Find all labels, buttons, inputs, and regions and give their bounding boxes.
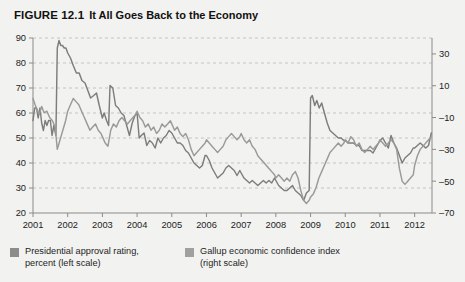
- legend-swatch-approval: [10, 248, 19, 257]
- chart-svg: 2030405060708090 3010–10–30–50–70 200120…: [0, 30, 465, 230]
- page-title: It All Goes Back to the Economy: [89, 9, 258, 21]
- x-tick-label: 2006: [196, 220, 217, 230]
- x-tick-label: 2005: [161, 220, 182, 230]
- x-tick-label: 2011: [370, 220, 390, 230]
- legend-label-confidence: Gallup economic confidence index (right …: [200, 246, 340, 269]
- chart-gridlines: [33, 38, 432, 188]
- left-axis-ticks: 2030405060708090: [16, 33, 33, 218]
- chart-series-group: [33, 41, 431, 204]
- right-tick-label: –30: [439, 145, 455, 155]
- series-line-0: [33, 41, 431, 201]
- right-tick-label: –50: [439, 177, 455, 187]
- left-tick-label: 90: [16, 33, 26, 43]
- right-tick-label: 30: [439, 49, 449, 59]
- left-tick-label: 50: [16, 133, 26, 143]
- x-tick-label: 2009: [300, 220, 321, 230]
- x-tick-label: 2007: [231, 220, 252, 230]
- left-tick-label: 80: [16, 58, 26, 68]
- x-tick-label: 2004: [127, 220, 148, 230]
- x-axis-ticks: 2001200220032004200520062007200820092010…: [23, 213, 425, 230]
- x-tick-label: 2002: [57, 220, 78, 230]
- x-tick-label: 2008: [266, 220, 287, 230]
- right-axis-ticks: 3010–10–30–50–70: [432, 49, 455, 218]
- left-tick-label: 70: [16, 83, 26, 93]
- right-tick-label: –10: [439, 113, 455, 123]
- right-tick-label: –70: [439, 208, 455, 218]
- figure-container: FIGURE 12.1 It All Goes Back to the Econ…: [0, 0, 465, 282]
- x-tick-label: 2010: [335, 220, 356, 230]
- chart-legend: Presidential approval rating, percent (l…: [10, 246, 460, 280]
- figure-number-label: FIGURE 12.1: [14, 9, 84, 21]
- left-tick-label: 20: [16, 208, 26, 218]
- legend-item-confidence: Gallup economic confidence index (right …: [185, 246, 340, 280]
- left-tick-label: 30: [16, 183, 26, 193]
- left-tick-label: 40: [16, 158, 26, 168]
- legend-swatch-confidence: [185, 248, 194, 257]
- left-tick-label: 60: [16, 108, 26, 118]
- figure-title-bar: FIGURE 12.1 It All Goes Back to the Econ…: [14, 5, 454, 25]
- legend-item-approval: Presidential approval rating, percent (l…: [10, 246, 165, 280]
- chart-plot-area: 2030405060708090 3010–10–30–50–70 200120…: [0, 30, 465, 230]
- right-tick-label: 10: [439, 81, 449, 91]
- x-tick-label: 2003: [92, 220, 113, 230]
- legend-label-approval: Presidential approval rating, percent (l…: [25, 246, 165, 269]
- x-tick-label: 2001: [23, 220, 44, 230]
- x-tick-label: 2012: [404, 220, 425, 230]
